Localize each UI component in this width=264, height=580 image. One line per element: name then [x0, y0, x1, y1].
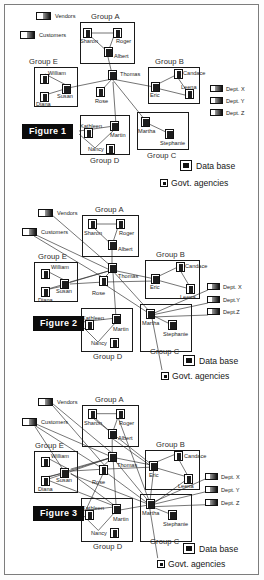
- label-diana: Diana: [36, 101, 51, 107]
- govt-agencies-icon-2: [161, 372, 169, 380]
- dept-y-label: Dept. Y: [226, 98, 245, 104]
- node-kathleen[interactable]: [84, 128, 93, 138]
- vendors-label-3: Vendors: [57, 399, 78, 405]
- node-roger[interactable]: [113, 28, 122, 38]
- node-martha-2[interactable]: [146, 309, 155, 319]
- node-thomas-3[interactable]: [108, 452, 117, 462]
- node-stephanie-2[interactable]: [168, 320, 177, 330]
- label-stephanie: Stephanie: [160, 140, 185, 146]
- group-label-b-2: Group B: [156, 250, 185, 259]
- label-kathleen-2: Kathleen: [82, 315, 104, 321]
- node-roger-2[interactable]: [116, 219, 125, 229]
- node-sharon-3[interactable]: [88, 409, 97, 419]
- node-william-2[interactable]: [41, 269, 50, 279]
- node-nancy-2[interactable]: [110, 338, 119, 348]
- node-martha[interactable]: [141, 117, 150, 127]
- database-label-3: Data base: [199, 544, 238, 554]
- node-albert-2[interactable]: [108, 240, 117, 250]
- customers-label-3: Customers: [41, 419, 68, 425]
- dept-y-label-2: Dept.Y: [223, 297, 240, 303]
- node-thomas[interactable]: [108, 70, 117, 80]
- label-martha-2: Martha: [142, 320, 159, 326]
- group-label-e-2: Group E: [38, 252, 67, 261]
- dept-y-swatch-icon: [210, 97, 223, 104]
- dept-x-swatch-icon-2: [207, 283, 220, 290]
- label-nancy-3: Nancy: [91, 530, 107, 536]
- database-icon: [180, 160, 192, 171]
- node-candace[interactable]: [174, 69, 183, 79]
- label-roger-3: Roger: [119, 420, 134, 426]
- dept-z-swatch-icon-2: [207, 308, 220, 315]
- label-william-3: William: [51, 453, 69, 459]
- node-candace-2[interactable]: [176, 262, 185, 272]
- vendors-label: Vendors: [55, 13, 76, 19]
- label-susan: Susan: [57, 93, 73, 99]
- label-candace: Candace: [183, 70, 205, 76]
- govt-agencies-label-3: Govt. agencies: [168, 559, 225, 569]
- group-label-a-2: Group A: [95, 205, 124, 214]
- label-thomas: Thomas: [120, 71, 140, 77]
- dept-y-swatch-icon-3: [205, 486, 218, 493]
- group-label-e: Group E: [29, 57, 58, 66]
- node-sharon-2[interactable]: [88, 219, 97, 229]
- node-nancy[interactable]: [106, 144, 115, 154]
- label-sharon: Sharon: [80, 38, 98, 44]
- node-albert-3[interactable]: [108, 429, 117, 439]
- node-martin-2[interactable]: [112, 314, 121, 324]
- customers-label: Customers: [39, 32, 66, 38]
- customers-swatch-icon-2: [22, 228, 37, 236]
- group-label-b: Group B: [155, 57, 184, 66]
- label-thomas-2: Thomas: [118, 273, 138, 279]
- node-martin[interactable]: [110, 121, 119, 131]
- vendors-label-2: Vendors: [57, 210, 78, 216]
- label-rose-2: Rose: [92, 290, 105, 296]
- node-diana-3[interactable]: [41, 476, 50, 486]
- label-kathleen: Kathleen: [80, 123, 102, 129]
- node-albert[interactable]: [104, 47, 113, 57]
- label-albert-3: Albert: [118, 435, 133, 441]
- dept-x-swatch-icon: [210, 85, 223, 92]
- node-martin-3[interactable]: [112, 504, 121, 514]
- node-martha-3[interactable]: [146, 499, 155, 509]
- node-stephanie-3[interactable]: [168, 510, 177, 520]
- label-martin-3: Martin: [113, 516, 129, 522]
- node-rose-2[interactable]: [99, 276, 108, 286]
- figure-panel-1: Vendors Customers Group A Sharon Roger A…: [0, 0, 264, 195]
- database-label: Data base: [196, 161, 235, 171]
- label-nancy-2: Nancy: [91, 340, 107, 346]
- node-rose[interactable]: [96, 87, 105, 97]
- dept-y-label-3: Dept. Y: [221, 487, 240, 493]
- node-roger-3[interactable]: [116, 409, 125, 419]
- node-diana-2[interactable]: [41, 287, 50, 297]
- node-sharon[interactable]: [83, 28, 92, 38]
- dept-z-swatch-icon: [210, 109, 223, 116]
- node-candace-3[interactable]: [174, 451, 183, 461]
- group-label-c: Group C: [147, 151, 176, 160]
- label-diana-3: Diana: [38, 486, 53, 492]
- dept-x-swatch-icon-3: [205, 473, 218, 480]
- dept-x-label-3: Dept. X: [221, 474, 240, 480]
- label-nancy: Nancy: [88, 146, 104, 152]
- node-leena[interactable]: [185, 89, 194, 99]
- dept-y-swatch-icon-2: [207, 296, 220, 303]
- label-eric: Eric: [150, 92, 160, 98]
- node-kathleen-3[interactable]: [85, 510, 94, 520]
- node-william-3[interactable]: [41, 457, 50, 467]
- label-roger-2: Roger: [119, 230, 134, 236]
- govt-agencies-icon: [160, 179, 168, 187]
- node-eric-3[interactable]: [149, 461, 158, 471]
- node-leena-2[interactable]: [186, 284, 195, 294]
- label-susan-3: Susan: [56, 477, 72, 483]
- node-eric-2[interactable]: [151, 274, 160, 284]
- label-albert-2: Albert: [118, 246, 133, 252]
- label-leena-2: Leena: [180, 294, 196, 300]
- dept-z-label-3: Dept. Z: [221, 500, 239, 506]
- group-label-d: Group D: [90, 156, 119, 165]
- node-thomas-2[interactable]: [108, 263, 117, 273]
- node-eric[interactable]: [151, 82, 160, 92]
- node-stephanie[interactable]: [165, 129, 174, 139]
- label-leena-3: Leena: [178, 483, 194, 489]
- node-rose-3[interactable]: [99, 465, 108, 475]
- node-nancy-3[interactable]: [110, 528, 119, 538]
- node-kathleen-2[interactable]: [85, 320, 94, 330]
